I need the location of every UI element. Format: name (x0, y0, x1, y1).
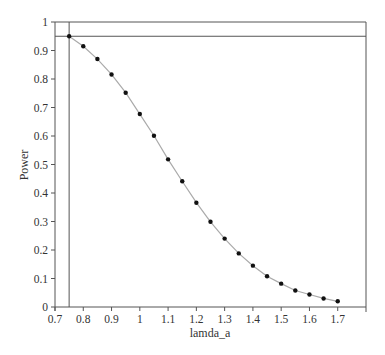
x-tick-label: 1.3 (217, 313, 232, 325)
x-tick-label: 1 (137, 313, 143, 325)
data-point-marker (279, 281, 283, 285)
x-tick-label: 1.7 (331, 313, 346, 325)
y-axis-ticks: 00.10.20.30.40.50.60.70.80.91 (34, 16, 55, 313)
data-point-marker (152, 134, 156, 138)
data-point-marker (95, 57, 99, 61)
y-tick-label: 0.6 (34, 130, 49, 142)
y-tick-label: 0.2 (34, 244, 49, 256)
power-series (67, 34, 340, 303)
data-point-marker (321, 296, 325, 300)
data-point-marker (208, 220, 212, 224)
data-point-marker (123, 90, 127, 94)
data-point-marker (307, 292, 311, 296)
y-tick-label: 0.9 (34, 45, 49, 57)
x-tick-label: 1.1 (161, 313, 176, 325)
y-tick-label: 0.5 (34, 159, 49, 171)
y-axis-label: Power (17, 150, 31, 181)
y-tick-label: 0.8 (34, 73, 49, 85)
x-tick-label: 0.7 (48, 313, 63, 325)
x-tick-label: 1.5 (274, 313, 289, 325)
plot-frame (55, 22, 366, 312)
x-tick-label: 1.4 (246, 313, 261, 325)
power-curve-line (69, 36, 338, 301)
x-tick-label: 1.2 (189, 313, 204, 325)
y-tick-label: 0.7 (34, 102, 49, 114)
y-tick-label: 0.4 (34, 187, 49, 199)
x-tick-label: 0.8 (76, 313, 91, 325)
data-point-marker (336, 299, 340, 303)
data-point-marker (109, 72, 113, 76)
x-tick-label: 0.9 (104, 313, 119, 325)
data-point-marker (194, 200, 198, 204)
x-axis-label: lamda_a (190, 326, 231, 340)
data-point-marker (180, 179, 184, 183)
data-point-marker (265, 274, 269, 278)
data-point-marker (251, 263, 255, 267)
y-tick-label: 1 (42, 16, 48, 28)
x-axis-ticks: 0.70.80.911.11.21.31.41.51.61.7 (48, 307, 345, 325)
x-tick-label: 1.6 (302, 313, 317, 325)
data-point-marker (293, 288, 297, 292)
data-point-marker (67, 34, 71, 38)
data-point-marker (138, 112, 142, 116)
data-point-marker (222, 236, 226, 240)
y-tick-label: 0 (42, 301, 48, 313)
reference-lines (55, 22, 366, 307)
y-tick-label: 0.1 (34, 273, 49, 285)
y-tick-label: 0.3 (34, 216, 49, 228)
power-curve-chart: 0.70.80.911.11.21.31.41.51.61.7 00.10.20… (0, 0, 385, 355)
data-point-marker (166, 157, 170, 161)
data-point-marker (237, 251, 241, 255)
data-point-marker (81, 44, 85, 48)
